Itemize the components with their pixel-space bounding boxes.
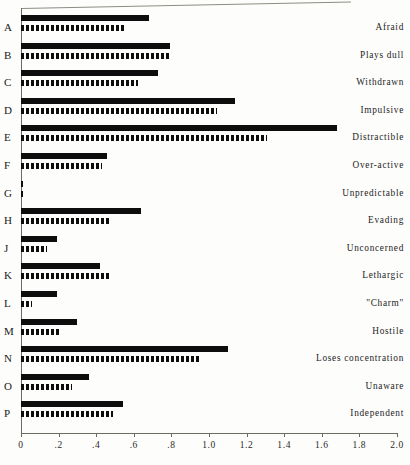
- bar-dashed: [21, 80, 138, 86]
- row-category-label: Withdrawn: [356, 77, 404, 87]
- bar-row: OUnaware: [0, 373, 410, 399]
- x-tick-label: 1.6: [315, 440, 329, 450]
- x-tick: [284, 433, 285, 437]
- row-category-label: Unconcerned: [347, 243, 404, 253]
- row-category-label: Unpredictable: [342, 188, 404, 198]
- x-tick-label: 1.8: [353, 440, 367, 450]
- x-tick-label: 1.2: [240, 440, 254, 450]
- x-tick: [397, 433, 398, 437]
- row-category-label: Hostile: [372, 326, 404, 336]
- bar-dashed: [21, 356, 201, 362]
- plot-area: 0.2.4.6.81.01.21.41.61.82.0 AAfraidBPlay…: [0, 0, 410, 465]
- x-tick: [171, 433, 172, 437]
- bar-dashed: [21, 301, 32, 307]
- bar-solid: [21, 98, 235, 104]
- row-letter: N: [4, 352, 12, 364]
- x-tick-label: 1.4: [277, 440, 291, 450]
- bar-solid: [21, 236, 57, 242]
- bar-row: HEvading: [0, 207, 410, 233]
- x-tick-label: .2: [54, 440, 62, 450]
- bar-row: GUnpredictable: [0, 180, 410, 206]
- bar-dashed: [21, 246, 47, 252]
- bar-solid: [21, 374, 89, 380]
- bar-dashed: [21, 273, 111, 279]
- bar-solid: [21, 263, 100, 269]
- bar-solid: [21, 208, 141, 214]
- x-tick: [21, 433, 22, 437]
- x-tick: [359, 433, 360, 437]
- x-tick-label: 2.0: [390, 440, 404, 450]
- row-letter: G: [4, 187, 12, 199]
- row-letter: O: [4, 380, 12, 392]
- row-category-label: Distractible: [352, 132, 404, 142]
- bar-solid: [21, 43, 170, 49]
- bar-row: AAfraid: [0, 14, 410, 40]
- row-letter: H: [4, 214, 12, 226]
- row-letter: A: [4, 21, 12, 33]
- bar-dashed: [21, 163, 102, 169]
- bar-solid: [21, 125, 337, 131]
- bar-dashed: [21, 108, 217, 114]
- row-category-label: Plays dull: [360, 50, 404, 60]
- x-tick-label: 1.0: [202, 440, 216, 450]
- bar-row: BPlays dull: [0, 42, 410, 68]
- row-letter: D: [4, 104, 12, 116]
- bar-dashed: [21, 25, 126, 31]
- row-letter: M: [4, 325, 14, 337]
- x-tick: [59, 433, 60, 437]
- x-tick: [96, 433, 97, 437]
- top-rule-line: [21, 1, 351, 9]
- row-letter: P: [4, 407, 11, 419]
- bar-dashed: [21, 53, 171, 59]
- bar-solid: [21, 15, 149, 21]
- bar-dashed: [21, 384, 72, 390]
- bar-row: EDistractible: [0, 124, 410, 150]
- x-tick: [134, 433, 135, 437]
- row-category-label: "Charm": [366, 298, 404, 308]
- bar-row: NLoses concentration: [0, 345, 410, 371]
- x-tick: [247, 433, 248, 437]
- row-category-label: Afraid: [376, 22, 404, 32]
- row-letter: L: [4, 297, 11, 309]
- row-category-label: Independent: [350, 408, 404, 418]
- bar-row: DImpulsive: [0, 97, 410, 123]
- row-category-label: Evading: [368, 215, 404, 225]
- x-tick-label: .4: [92, 440, 100, 450]
- row-category-label: Loses concentration: [316, 353, 404, 363]
- x-tick: [209, 433, 210, 437]
- bar-solid: [21, 401, 123, 407]
- bar-solid: [21, 346, 228, 352]
- x-tick-label: 0: [18, 440, 23, 450]
- bar-row: MHostile: [0, 318, 410, 344]
- bar-solid: [21, 319, 77, 325]
- bar-solid: [21, 70, 158, 76]
- bar-row: PIndependent: [0, 400, 410, 426]
- row-letter: C: [4, 76, 12, 88]
- bar-row: CWithdrawn: [0, 69, 410, 95]
- x-tick: [322, 433, 323, 437]
- chart-root: 0.2.4.6.81.01.21.41.61.82.0 AAfraidBPlay…: [0, 0, 410, 465]
- bar-dashed: [21, 218, 111, 224]
- row-letter: F: [4, 159, 11, 171]
- row-category-label: Over-active: [353, 160, 404, 170]
- bar-row: KLethargic: [0, 262, 410, 288]
- bar-row: L"Charm": [0, 290, 410, 316]
- x-tick-label: .6: [130, 440, 138, 450]
- bar-dashed: [21, 329, 59, 335]
- bar-dashed: [21, 135, 267, 141]
- row-letter: E: [4, 131, 11, 143]
- row-letter: B: [4, 49, 12, 61]
- row-category-label: Lethargic: [362, 270, 404, 280]
- row-category-label: Impulsive: [361, 105, 404, 115]
- bar-solid: [21, 291, 57, 297]
- bar-row: FOver-active: [0, 152, 410, 178]
- bar-solid: [21, 153, 107, 159]
- bar-solid: [21, 181, 23, 187]
- bar-dashed: [21, 191, 23, 197]
- bar-dashed: [21, 411, 113, 417]
- row-letter: J: [4, 242, 9, 254]
- row-letter: K: [4, 269, 12, 281]
- row-category-label: Unaware: [366, 381, 404, 391]
- x-tick-label: .8: [167, 440, 175, 450]
- bar-row: JUnconcerned: [0, 235, 410, 261]
